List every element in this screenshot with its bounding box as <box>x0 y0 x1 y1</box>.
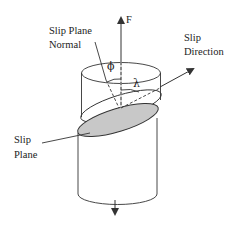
slip-plane-normal-line <box>95 42 106 80</box>
force-label: F <box>126 13 132 26</box>
phi-angle-arc <box>107 79 121 82</box>
phi-symbol: ϕ <box>107 60 115 73</box>
slip-direction-label-line1: Slip <box>184 31 201 44</box>
slip-plane-ellipse <box>74 97 161 144</box>
slip-plane-leader <box>42 133 90 143</box>
slip-plane-label-line2: Plane <box>14 148 37 161</box>
slip-plane-label-line1: Slip <box>14 133 31 146</box>
slip-plane-normal-label-line1: Slip Plane <box>49 24 92 37</box>
slip-direction-arrow <box>160 69 193 87</box>
diagram-canvas <box>0 0 238 238</box>
slip-direction-label-line2: Direction <box>184 45 224 58</box>
slip-plane-normal-label-line2: Normal <box>49 38 81 51</box>
lambda-symbol: λ <box>133 77 140 90</box>
